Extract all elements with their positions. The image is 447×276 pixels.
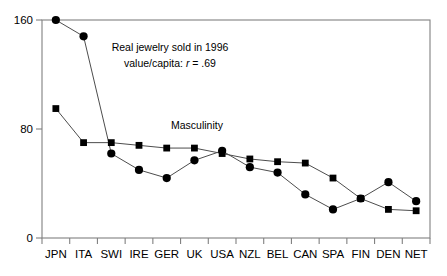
data-point-2-spa [330, 175, 337, 182]
data-point-2-fin [357, 195, 364, 202]
x-tick-label-usa: USA [210, 248, 234, 260]
series-line-1 [56, 20, 416, 209]
data-point-2-swi [108, 139, 115, 146]
x-tick-label-fin: FIN [351, 248, 370, 260]
data-point-2-uk [191, 145, 198, 152]
x-tick-label-ire: IRE [129, 248, 149, 260]
plot-frame [42, 20, 430, 238]
x-tick-label-ger: GER [154, 248, 179, 260]
jewelry-annotation-suffix: = .69 [189, 57, 216, 69]
y-tick-label-80: 80 [20, 123, 33, 135]
data-point-2-nzl [246, 156, 253, 163]
data-point-1-nzl [246, 163, 254, 171]
y-tick-label-160: 160 [14, 14, 33, 26]
masculinity-annotation: Masculinity [171, 119, 224, 131]
data-point-2-den [385, 206, 392, 213]
y-tick-label-0: 0 [27, 232, 33, 244]
series-lines [56, 20, 416, 211]
data-point-2-jpn [52, 105, 59, 112]
chart-plot-area: 160 80 0 JPNITASWIIREGERUKUSANZLBELCANSP… [0, 0, 447, 276]
data-point-2-usa [219, 150, 226, 157]
y-axis-tick-labels: 160 80 0 [14, 14, 33, 244]
x-tick-label-swi: SWI [100, 248, 122, 260]
x-tick-label-uk: UK [186, 248, 202, 260]
x-tick-label-bel: BEL [267, 248, 289, 260]
data-point-2-bel [274, 158, 281, 165]
x-axis-tick-labels: JPNITASWIIREGERUKUSANZLBELCANSPAFINDENNE… [45, 248, 428, 260]
y-axis-ticks [36, 20, 42, 238]
data-point-2-can [302, 160, 309, 167]
data-point-1-bel [273, 169, 281, 177]
x-tick-label-spa: SPA [322, 248, 344, 260]
x-tick-label-net: NET [405, 248, 428, 260]
data-point-2-ire [136, 142, 143, 149]
jewelry-annotation-line1: Real jewelry sold in 1996 [112, 41, 229, 53]
series-markers [52, 16, 420, 214]
data-point-1-ger [163, 174, 171, 182]
data-point-1-jpn [52, 16, 60, 24]
chart-figure: 160 80 0 JPNITASWIIREGERUKUSANZLBELCANSP… [0, 0, 447, 276]
x-tick-label-ita: ITA [75, 248, 92, 260]
data-point-2-net [413, 207, 420, 214]
x-tick-label-nzl: NZL [239, 248, 261, 260]
jewelry-annotation: Real jewelry sold in 1996 value/capita: … [112, 41, 229, 69]
data-point-1-swi [107, 149, 115, 157]
data-point-2-ita [80, 139, 87, 146]
data-point-1-den [384, 178, 392, 186]
x-tick-label-den: DEN [376, 248, 400, 260]
jewelry-annotation-prefix: value/capita: [124, 57, 186, 69]
x-axis-ticks [42, 238, 430, 244]
data-point-1-uk [190, 156, 198, 164]
data-point-1-ire [135, 166, 143, 174]
data-point-2-ger [163, 145, 170, 152]
data-point-1-spa [329, 205, 337, 213]
data-point-1-can [301, 190, 309, 198]
jewelry-annotation-line2: value/capita: r = .69 [124, 57, 216, 69]
data-point-1-net [412, 197, 420, 205]
x-tick-label-can: CAN [293, 248, 317, 260]
data-point-1-ita [79, 32, 87, 40]
x-tick-label-jpn: JPN [45, 248, 67, 260]
